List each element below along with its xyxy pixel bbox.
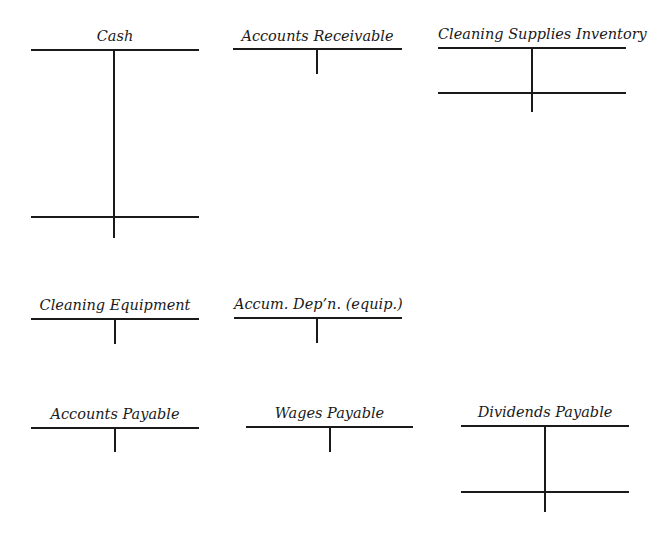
account-title: Cleaning Equipment	[31, 297, 199, 313]
t-account-balance-line	[461, 491, 629, 493]
t-account-balance-line	[438, 92, 626, 94]
t-account-divider	[113, 49, 115, 238]
t-account-top-line	[31, 49, 199, 51]
t-account-cleaning-supplies-inventory: Cleaning Supplies Inventory	[438, 26, 626, 114]
t-account-accumulated-depreciation-equipment: Accum. Dep’n. (equip.)	[234, 296, 402, 344]
account-title: Accum. Dep’n. (equip.)	[234, 296, 402, 312]
t-account-divider	[316, 48, 318, 74]
account-title: Dividends Payable	[461, 404, 629, 420]
t-account-dividends-payable: Dividends Payable	[461, 404, 629, 514]
t-account-divider	[114, 427, 116, 452]
t-account-accounts-receivable: Accounts Receivable	[233, 28, 402, 76]
t-account-top-line	[233, 48, 402, 50]
t-account-divider	[329, 426, 331, 452]
account-title: Wages Payable	[246, 405, 413, 421]
t-account-cash: Cash	[31, 28, 199, 240]
t-account-divider	[316, 317, 318, 343]
account-title: Accounts Payable	[31, 406, 199, 422]
t-account-top-line	[234, 317, 402, 319]
t-account-wages-payable: Wages Payable	[246, 405, 413, 453]
t-account-balance-line	[31, 216, 199, 218]
t-account-divider	[544, 425, 546, 512]
account-title: Cleaning Supplies Inventory	[438, 26, 626, 42]
t-account-divider	[531, 47, 533, 112]
t-account-cleaning-equipment: Cleaning Equipment	[31, 297, 199, 345]
t-account-accounts-payable: Accounts Payable	[31, 406, 199, 454]
account-title: Cash	[31, 28, 199, 44]
t-account-divider	[114, 318, 116, 344]
account-title: Accounts Receivable	[233, 28, 402, 44]
